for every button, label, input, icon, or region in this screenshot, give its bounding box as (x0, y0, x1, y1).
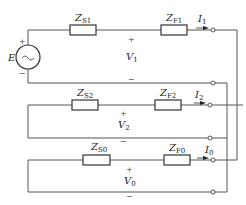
impedance-zf2 (155, 100, 181, 110)
zs0-label: ZS0 (90, 141, 107, 154)
impedance-zf1 (161, 25, 187, 35)
i1-label: I1 (197, 13, 206, 26)
arrow-head-icon (203, 26, 209, 30)
terminal-neg0 (211, 190, 215, 194)
impedance-zs0 (83, 155, 110, 165)
v1-plus: + (128, 35, 135, 44)
zf0-label: ZF0 (168, 142, 185, 155)
v0-plus: + (126, 165, 133, 174)
zero-sequence-network: ZS0 ZF0 I0 + V0 − (28, 141, 237, 201)
v2-minus: − (120, 137, 127, 146)
source-label: E (7, 52, 16, 63)
v0-label: V0 (124, 175, 136, 188)
circuit-diagram: + − E ZS1 ZF1 I1 + V1 − ZS2 ZF2 I2 (0, 0, 246, 205)
terminal-i2 (208, 103, 212, 107)
zs1-label: ZS1 (74, 12, 91, 25)
zf2-label: ZF2 (159, 87, 176, 100)
terminal-neg1 (211, 81, 215, 85)
i0-label: I0 (204, 144, 213, 157)
source-minus: − (19, 69, 26, 78)
zf1-label: ZF1 (165, 12, 182, 25)
impedance-zs2 (72, 100, 98, 110)
negative-sequence-network: ZS2 ZF2 I2 + V2 − (28, 87, 243, 146)
v2-plus: + (120, 109, 127, 118)
v1-minus: − (128, 75, 135, 84)
positive-sequence-network: + − E ZS1 ZF1 I1 + V1 − (7, 12, 237, 85)
v0-minus: − (126, 192, 133, 201)
impedance-zs1 (70, 25, 96, 35)
terminal-neg2 (208, 136, 212, 140)
zs2-label: ZS2 (76, 87, 93, 100)
v1-label: V1 (126, 51, 138, 64)
terminal-i1 (211, 28, 215, 32)
voltage-source (16, 45, 40, 69)
impedance-zf0 (164, 155, 190, 165)
v2-label: V2 (118, 119, 130, 132)
terminal-i0 (211, 158, 215, 162)
i2-label: I2 (194, 89, 203, 102)
source-plus: + (19, 37, 26, 46)
